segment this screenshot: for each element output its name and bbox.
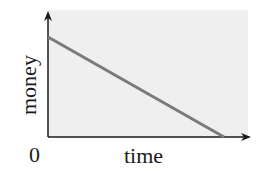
graph-svg: 0 time money [0,0,258,180]
plot-area [48,10,248,137]
x-axis-label: time [124,143,163,168]
origin-label: 0 [29,142,40,167]
y-axis-label: money [16,55,41,115]
money-vs-time-graph: 0 time money [0,0,258,180]
